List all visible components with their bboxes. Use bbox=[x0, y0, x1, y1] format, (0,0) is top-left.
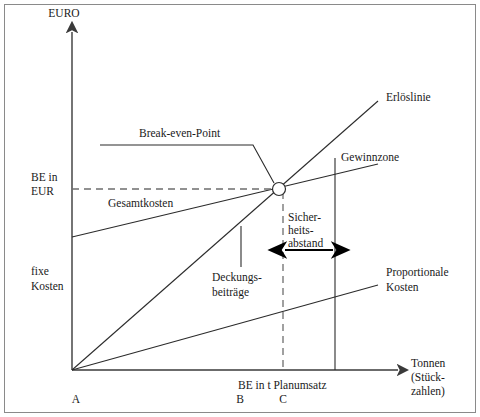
x-axis-label-line2: (Stück- bbox=[411, 371, 445, 384]
annotation-gesamtkosten: Gesamtkosten bbox=[108, 197, 173, 209]
annotation-deckungsbeitraege-line1: Deckungs- bbox=[212, 271, 262, 284]
annotation-fixe-kosten-line1: fixe bbox=[31, 265, 49, 277]
annotation-sicherheitsabstand-line3: abstand bbox=[288, 237, 323, 249]
annotation-be-in-t-planumsatz: BE in t Planumsatz bbox=[238, 379, 326, 391]
y-axis-label: EURO bbox=[48, 7, 79, 19]
annotation-fixe-kosten-line2: Kosten bbox=[31, 280, 64, 292]
x-axis-label-line3: zahlen) bbox=[411, 385, 445, 398]
chart-canvas: EURO Tonnen (Stück- zahlen) Break-even-P… bbox=[0, 0, 480, 417]
annotation-sicherheitsabstand-line1: Sicher- bbox=[288, 211, 321, 223]
y-value-label-line1: BE in bbox=[31, 171, 58, 183]
x-tick-label-b: B bbox=[236, 393, 244, 405]
annotation-sicherheitsabstand-line2: heits- bbox=[288, 224, 314, 236]
figure-border bbox=[5, 5, 476, 413]
annotation-proportionale-kosten-line1: Proportionale bbox=[386, 266, 449, 279]
y-value-label-line2: EUR bbox=[31, 185, 54, 197]
annotation-erloeslinie: Erlöslinie bbox=[386, 91, 431, 103]
break-even-chart-figure: EURO Tonnen (Stück- zahlen) Break-even-P… bbox=[0, 0, 480, 417]
x-tick-label-c: C bbox=[279, 393, 287, 405]
annotation-deckungsbeitraege-line2: beiträge bbox=[212, 286, 249, 299]
x-axis-label-line1: Tonnen bbox=[411, 357, 446, 369]
x-tick-label-a: A bbox=[72, 393, 81, 405]
annotation-break-even-point: Break-even-Point bbox=[139, 127, 221, 139]
annotation-gewinnzone: Gewinnzone bbox=[341, 151, 399, 163]
annotation-proportionale-kosten-line2: Kosten bbox=[386, 281, 419, 293]
break-even-point-marker bbox=[273, 183, 286, 196]
